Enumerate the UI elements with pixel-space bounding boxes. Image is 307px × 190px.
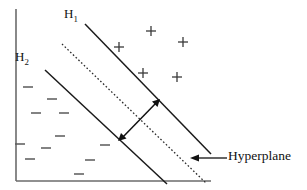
h2-label-subscript: 2 — [24, 57, 28, 67]
hyperplane-dotted-line — [62, 44, 206, 183]
boundary-lines-group — [45, 24, 211, 184]
hyperplane-label: Hyperplane — [228, 149, 291, 163]
axes-group — [16, 9, 211, 181]
margin-arrow-shaft — [122, 102, 157, 138]
h1-label: H1 — [64, 7, 78, 23]
h1-label-base: H — [64, 6, 73, 21]
svm-hyperplane-figure: H1 H2 Hyperplane — [0, 0, 307, 190]
hyperplane-leader-group — [190, 155, 227, 162]
h1-label-subscript: 1 — [73, 14, 77, 24]
h1-boundary-line — [85, 24, 211, 154]
negative-class-markers — [15, 87, 110, 174]
plus-marker — [178, 37, 188, 47]
positive-class-markers — [114, 26, 188, 82]
plus-marker — [114, 42, 124, 52]
h2-label: H2 — [15, 50, 29, 66]
hyperplane-leader-arrowhead — [190, 155, 199, 162]
plus-marker — [172, 72, 182, 82]
margin-arrow-group — [118, 99, 160, 141]
plus-marker — [138, 68, 148, 78]
h2-label-base: H — [15, 49, 24, 64]
plus-marker — [146, 26, 156, 36]
